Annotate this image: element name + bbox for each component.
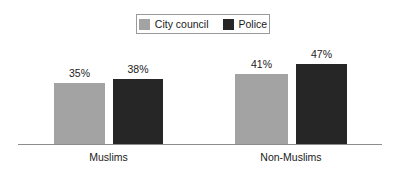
grouped-bar-chart: City council Police 35% 38% 41% 47% Musl… (0, 0, 398, 174)
x-axis-line (18, 144, 382, 145)
bar-value-muslims-police: 38% (113, 64, 163, 75)
bar-value-muslims-city-council: 35% (54, 68, 105, 79)
bar-value-non-muslims-city-council: 41% (235, 59, 288, 70)
plot-area: 35% 38% 41% 47% Muslims Non-Muslims (0, 0, 398, 174)
bar-non-muslims-city-council (235, 74, 288, 144)
bar-value-non-muslims-police: 47% (296, 49, 347, 60)
bar-muslims-police (113, 79, 163, 144)
x-axis-label-muslims: Muslims (54, 152, 163, 163)
bar-non-muslims-police (296, 64, 347, 144)
x-axis-label-non-muslims: Non-Muslims (235, 152, 347, 163)
bar-muslims-city-council (54, 83, 105, 144)
